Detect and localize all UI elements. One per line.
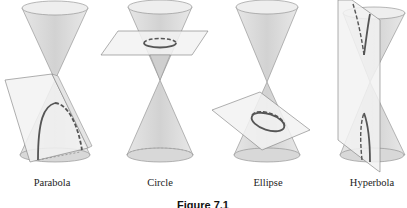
hyperbola-label: Hyperbola: [350, 177, 394, 188]
circle-label: Circle: [147, 177, 173, 188]
circle-plane: [101, 31, 208, 55]
ellipse-panel: [212, 0, 310, 162]
circle-panel: [101, 0, 208, 162]
parabola-panel: [5, 1, 92, 162]
parabola-label: Parabola: [34, 177, 71, 188]
parabola-plane: [5, 74, 92, 162]
hyperbola-panel: [338, 0, 405, 172]
ellipse-label: Ellipse: [253, 177, 282, 188]
ellipse-plane: [212, 92, 310, 150]
circle-cone: [127, 0, 193, 162]
figure-caption: Figure 7.1: [177, 199, 229, 208]
